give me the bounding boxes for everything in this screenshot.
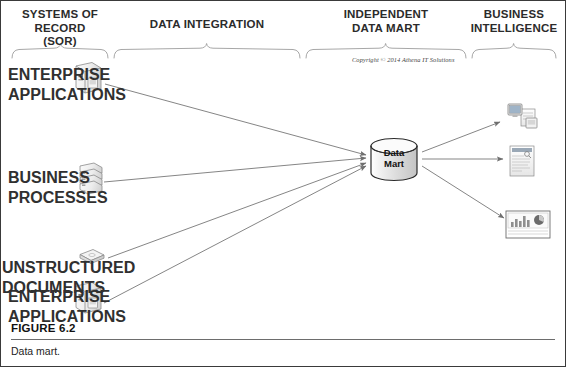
figure-page: Systems of Record (SOR) Data Integration… <box>0 0 566 367</box>
source-label-enterprise-applications-2-line1: Enterprise <box>8 287 72 307</box>
inbound-connectors <box>104 84 366 303</box>
source-label-business-processes: Business Processes <box>8 168 76 208</box>
section-header-sor-line2: (SOR) <box>6 35 114 49</box>
source-label-business-processes-line1: Business <box>8 168 76 188</box>
section-header-business-intelligence: Business Intelligence <box>466 8 562 35</box>
source-label-business-processes-line2: Processes <box>8 188 76 208</box>
source-label-enterprise-applications-2: Enterprise Applications <box>8 287 72 327</box>
caption-divider <box>11 339 555 340</box>
brace-data-integration <box>114 44 300 59</box>
connector-bi-monitor-report <box>422 122 500 152</box>
connector-enterprise-applications-2 <box>104 166 366 303</box>
section-header-business-intelligence-line2: Intelligence <box>466 22 562 36</box>
section-header-sor-line1: Systems of Record <box>6 8 114 35</box>
text-report-icon <box>510 146 534 176</box>
dashboard-chart-icon <box>506 211 550 238</box>
section-header-data-integration-line1: Data Integration <box>132 18 282 32</box>
section-header-independent-data-mart: Independent Data Mart <box>325 8 447 35</box>
data-mart-label-line2: Mart <box>371 158 417 169</box>
section-header-data-integration: Data Integration <box>132 18 282 32</box>
connector-business-processes <box>104 158 366 182</box>
section-header-sor: Systems of Record (SOR) <box>6 8 114 49</box>
connector-enterprise-applications-1 <box>105 84 366 155</box>
connector-unstructured-documents <box>108 163 366 258</box>
source-label-enterprise-applications-1-line2: Applications <box>8 85 72 105</box>
source-label-unstructured-documents-line1: Unstructured <box>2 258 78 278</box>
outbound-connectors <box>422 122 504 218</box>
connector-bi-dashboard-chart <box>422 166 504 218</box>
data-mart-label-line1: Data <box>371 147 417 158</box>
source-label-enterprise-applications-1-line1: Enterprise <box>8 65 72 85</box>
monitor-and-document-icon <box>508 104 537 128</box>
section-header-business-intelligence-line1: Business <box>466 8 562 22</box>
figure-caption: Data mart. <box>11 345 60 357</box>
figure-number: FIGURE 6.2 <box>11 322 76 334</box>
section-header-independent-data-mart-line1: Independent <box>325 8 447 22</box>
data-mart-label: Data Mart <box>371 147 417 169</box>
source-label-enterprise-applications-1: Enterprise Applications <box>8 65 72 105</box>
section-header-independent-data-mart-line2: Data Mart <box>325 22 447 36</box>
brace-business-intelligence <box>472 44 556 59</box>
copyright-notice: Copyright © 2014 Athena IT Solutions <box>352 56 455 63</box>
